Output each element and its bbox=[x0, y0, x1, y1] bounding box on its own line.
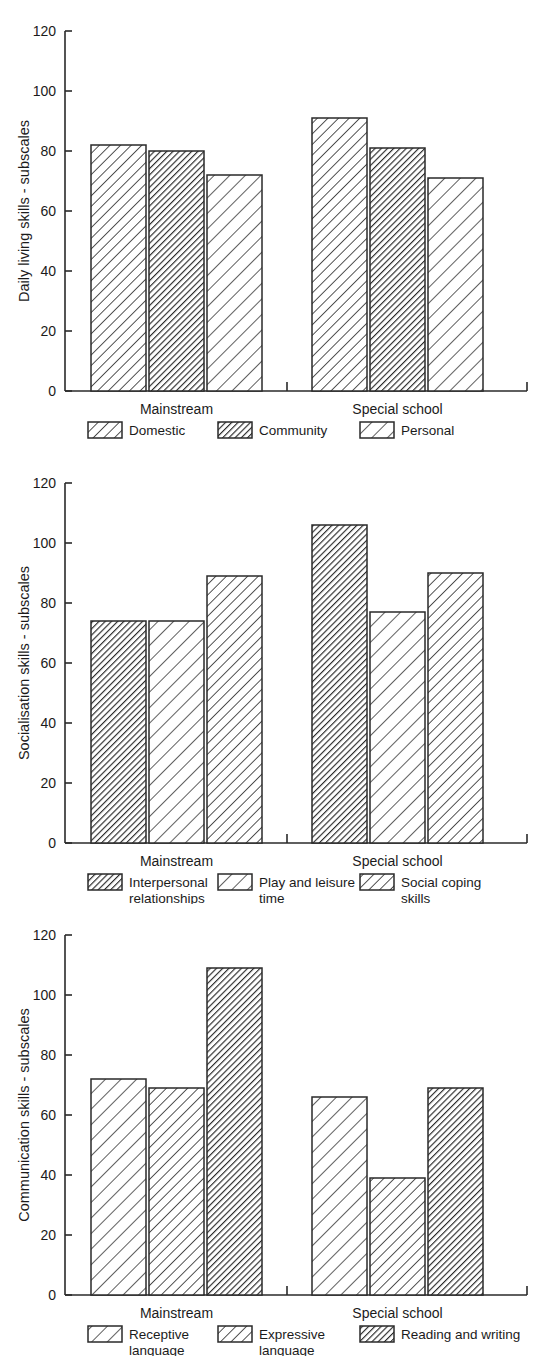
legend-swatch bbox=[88, 422, 122, 438]
legend-label: Domestic bbox=[129, 423, 186, 438]
chart-communication-skills: Communication skills - subscales02040608… bbox=[0, 904, 549, 1356]
x-category-label: Mainstream bbox=[140, 401, 213, 417]
figure-root: Daily living skills - subscales020406080… bbox=[0, 0, 549, 1357]
bar: Personal / Special school: 71 bbox=[428, 178, 483, 391]
y-tick-label: 0 bbox=[48, 835, 56, 851]
bar: Social coping skills / Special school: 9… bbox=[428, 573, 483, 843]
y-tick-label: 40 bbox=[40, 263, 56, 279]
y-tick-label: 120 bbox=[33, 927, 57, 943]
x-category-label: Special school bbox=[352, 401, 442, 417]
y-tick-label: 40 bbox=[40, 715, 56, 731]
y-tick-label: 60 bbox=[40, 1107, 56, 1123]
y-tick-label: 80 bbox=[40, 595, 56, 611]
legend-label: Personal bbox=[401, 423, 454, 438]
y-tick-label: 40 bbox=[40, 1167, 56, 1183]
bar: Interpersonal relationships / Special sc… bbox=[312, 525, 367, 843]
x-category-label: Mainstream bbox=[140, 1305, 213, 1321]
legend-swatch bbox=[88, 1326, 122, 1342]
bar: Reading and writing / Special school: 69 bbox=[428, 1088, 483, 1295]
legend-swatch bbox=[218, 422, 252, 438]
bar: Community / Special school: 81 bbox=[370, 148, 425, 391]
legend-label-line2: relationships bbox=[129, 891, 205, 904]
legend-label: Receptive bbox=[129, 1327, 189, 1342]
y-tick-label: 20 bbox=[40, 1227, 56, 1243]
bar: Social coping skills / Mainstream: 89 bbox=[207, 576, 262, 843]
legend-swatch bbox=[360, 874, 394, 890]
y-tick-label: 120 bbox=[33, 475, 57, 491]
y-tick-label: 80 bbox=[40, 143, 56, 159]
bar: Receptive language / Mainstream: 72 bbox=[91, 1079, 146, 1295]
chart-daily-living-skills: Daily living skills - subscales020406080… bbox=[0, 0, 549, 452]
y-tick-label: 20 bbox=[40, 323, 56, 339]
bar: Personal / Mainstream: 72 bbox=[207, 175, 262, 391]
legend-label: Community bbox=[259, 423, 328, 438]
legend-label: Expressive bbox=[259, 1327, 325, 1342]
bar: Expressive language / Special school: 39 bbox=[370, 1178, 425, 1295]
legend-label-line2: language bbox=[259, 1343, 315, 1356]
y-tick-label: 100 bbox=[33, 987, 57, 1003]
legend-swatch bbox=[360, 422, 394, 438]
legend-label: Reading and writing bbox=[401, 1327, 520, 1342]
y-tick-label: 20 bbox=[40, 775, 56, 791]
legend-label-line2: skills bbox=[401, 891, 430, 904]
bar: Domestic / Mainstream: 82 bbox=[91, 145, 146, 391]
y-tick-label: 0 bbox=[48, 383, 56, 399]
bar: Expressive language / Mainstream: 69 bbox=[149, 1088, 204, 1295]
legend-swatch bbox=[218, 874, 252, 890]
x-category-label: Special school bbox=[352, 1305, 442, 1321]
y-tick-label: 60 bbox=[40, 655, 56, 671]
y-tick-label: 120 bbox=[33, 23, 57, 39]
bar: Domestic / Special school: 91 bbox=[312, 118, 367, 391]
legend-swatch bbox=[360, 1326, 394, 1342]
x-category-label: Special school bbox=[352, 853, 442, 869]
legend-label: Social coping bbox=[401, 875, 481, 890]
y-tick-label: 80 bbox=[40, 1047, 56, 1063]
y-axis-label: Daily living skills - subscales bbox=[16, 120, 32, 302]
bar: Reading and writing / Mainstream: 109 bbox=[207, 968, 262, 1295]
legend-label-line2: language bbox=[129, 1343, 185, 1356]
bar: Play and leisure time / Special school: … bbox=[370, 612, 425, 843]
x-category-label: Mainstream bbox=[140, 853, 213, 869]
y-tick-label: 0 bbox=[48, 1287, 56, 1303]
legend-label: Interpersonal bbox=[129, 875, 208, 890]
chart-socialisation-skills: Socialisation skills - subscales02040608… bbox=[0, 452, 549, 904]
bar: Interpersonal relationships / Mainstream… bbox=[91, 621, 146, 843]
legend-label: Play and leisure bbox=[259, 875, 355, 890]
y-tick-label: 100 bbox=[33, 83, 57, 99]
y-axis-label: Socialisation skills - subscales bbox=[16, 566, 32, 760]
y-tick-label: 100 bbox=[33, 535, 57, 551]
y-tick-label: 60 bbox=[40, 203, 56, 219]
legend-label-line2: time bbox=[259, 891, 285, 904]
bar: Community / Mainstream: 80 bbox=[149, 151, 204, 391]
legend-swatch bbox=[88, 874, 122, 890]
legend-swatch bbox=[218, 1326, 252, 1342]
bar: Receptive language / Special school: 66 bbox=[312, 1097, 367, 1295]
y-axis-label: Communication skills - subscales bbox=[16, 1008, 32, 1222]
bar: Play and leisure time / Mainstream: 74 bbox=[149, 621, 204, 843]
